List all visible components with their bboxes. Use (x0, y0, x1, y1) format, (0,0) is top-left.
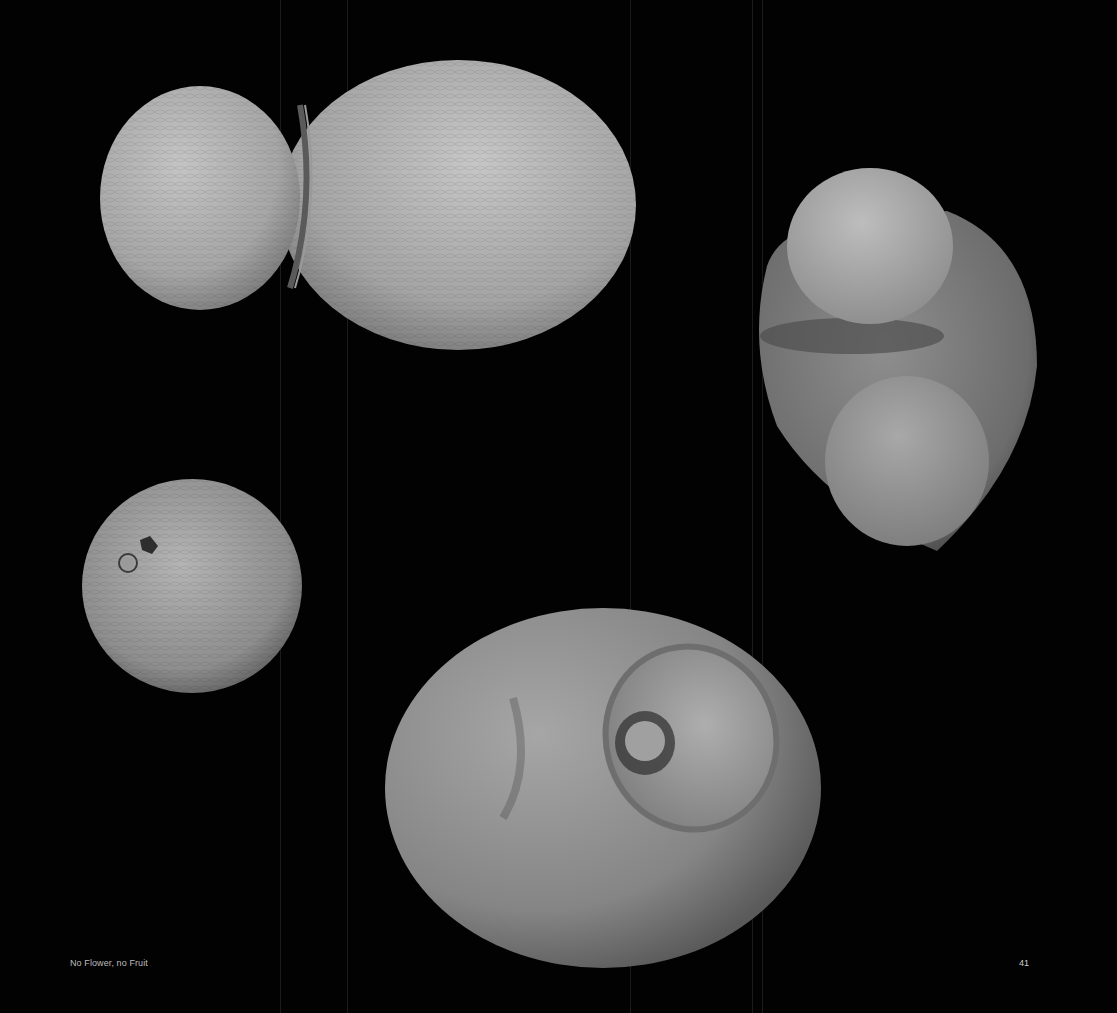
footer-book-title: No Flower, no Fruit (70, 958, 148, 968)
specimen-middle-left (80, 476, 305, 696)
specimen-top-right (737, 166, 1042, 554)
book-page: No Flower, no Fruit 41 (0, 0, 1117, 1013)
page-number: 41 (1019, 958, 1029, 968)
specimen-top-left (95, 60, 640, 355)
specimen-bottom-center (383, 608, 823, 976)
